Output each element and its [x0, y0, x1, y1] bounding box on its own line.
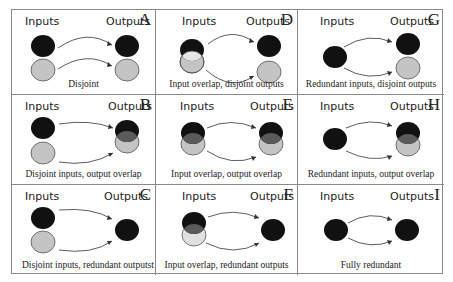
panel-b: Inputs Outputs B Disjoint inputs, output…	[12, 95, 156, 185]
panel-h: Inputs Outputs H Redundant inputs, outpu…	[298, 95, 444, 185]
panel-caption: Disjoint inputs, output overlap	[12, 169, 155, 179]
arrow	[59, 122, 113, 128]
arrow	[59, 241, 112, 251]
arrow	[59, 153, 113, 163]
input-set-black	[31, 117, 55, 139]
input-set-black	[31, 207, 55, 229]
arrowhead-icon	[387, 38, 392, 43]
panel-c: Inputs Outputs C Disjoint inputs, redund…	[12, 185, 156, 275]
arrow	[206, 243, 259, 250]
arrow	[59, 209, 112, 219]
panel-e: Inputs Outputs E Input overlap, output o…	[156, 95, 298, 185]
output-set-black	[395, 219, 419, 241]
arrow	[208, 34, 254, 44]
arrow	[348, 238, 392, 245]
input-set-black	[31, 35, 55, 57]
arrow	[348, 216, 392, 223]
arrowhead-icon	[107, 215, 112, 220]
arrow	[58, 59, 112, 69]
input-set-black	[323, 128, 347, 150]
arrowhead-icon	[249, 38, 254, 43]
arrow	[207, 151, 256, 161]
arrow	[346, 151, 392, 159]
panel-d: Inputs Outputs D Input overlap, disjoint…	[156, 10, 298, 95]
output-set-gray	[115, 59, 139, 81]
input-set-black	[323, 46, 347, 68]
arrow	[207, 123, 256, 129]
arrow	[58, 37, 112, 48]
arrow	[344, 38, 392, 47]
input-set-gray	[31, 59, 55, 81]
figure-grid: Inputs Outputs A Disjoint Inputs Outputs…	[11, 9, 443, 274]
arrowhead-icon	[107, 241, 112, 245]
arrow	[346, 122, 392, 128]
panel-caption: Redundant inputs, output overlap	[298, 169, 444, 179]
panel-f: Inputs Outputs F Input overlap, redundan…	[156, 185, 298, 275]
panel-caption: Input overlap, disjoint outputs	[156, 79, 297, 89]
arrow	[208, 212, 259, 218]
panel-g: Inputs Outputs G Redundant inputs, disjo…	[298, 10, 444, 95]
input-set-gray	[31, 142, 55, 164]
panel-caption: Disjoint	[12, 79, 155, 89]
panel-caption: Input overlap, redundant outputs	[156, 260, 297, 270]
output-set-black	[115, 219, 139, 241]
arrow	[344, 68, 392, 76]
panel-a: Inputs Outputs A Disjoint	[12, 10, 156, 95]
panel-caption: Input overlap, output overlap	[156, 169, 297, 179]
output-set-gray	[396, 57, 420, 79]
panel-caption: Disjoint inputs, redundant outputst	[22, 260, 155, 270]
arrowhead-icon	[387, 216, 392, 221]
panel-caption: Fully redundant	[298, 260, 444, 270]
output-set-black	[115, 35, 139, 57]
panel-i: Inputs Outputs I Fully redundant	[298, 185, 444, 275]
input-set-gray	[31, 231, 55, 253]
arrowhead-icon	[107, 62, 112, 67]
arrowhead-icon	[387, 122, 392, 127]
arrowhead-icon	[107, 41, 112, 46]
arrowhead-icon	[254, 214, 259, 219]
output-set-black	[257, 35, 281, 57]
output-set-black	[396, 33, 420, 55]
input-set-black	[324, 219, 348, 241]
arrowhead-icon	[108, 124, 113, 129]
output-set-black	[261, 219, 285, 241]
panel-caption: Redundant inputs, disjoint outputs	[298, 79, 444, 89]
arrowhead-icon	[251, 124, 256, 129]
